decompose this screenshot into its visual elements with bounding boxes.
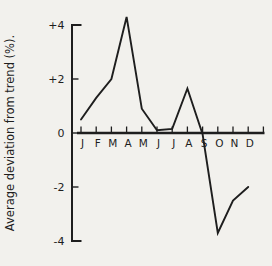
- y-axis-title: Average deviation from trend (%).: [3, 35, 17, 231]
- month-label-3: M: [108, 137, 117, 149]
- y-tick-label-+2: +2: [48, 73, 64, 86]
- month-label-11: N: [231, 137, 239, 149]
- month-label-6: J: [156, 137, 160, 149]
- month-label-2: F: [95, 137, 101, 149]
- y-axis-tick-labels: +4+20-2-4: [48, 19, 64, 248]
- month-label-8: A: [185, 137, 193, 149]
- month-label-1: J: [80, 137, 84, 149]
- y-tick-label--2: -2: [54, 181, 65, 194]
- month-label-5: M: [139, 137, 148, 149]
- month-label-10: O: [215, 137, 223, 149]
- x-axis-month-labels: JFMAMJJASOND: [80, 137, 254, 149]
- y-tick-label-+4: +4: [48, 19, 64, 32]
- deviation-trend-chart: +4+20-2-4 JFMAMJJASOND Average deviation…: [0, 0, 272, 266]
- trend-deviation-line: [81, 17, 248, 233]
- month-label-12: D: [246, 137, 254, 149]
- y-tick-label-0: 0: [58, 127, 65, 140]
- month-label-4: A: [125, 137, 133, 149]
- month-label-7: J: [171, 137, 175, 149]
- chart-figure: +4+20-2-4 JFMAMJJASOND Average deviation…: [0, 0, 272, 266]
- y-tick-label--4: -4: [54, 235, 65, 248]
